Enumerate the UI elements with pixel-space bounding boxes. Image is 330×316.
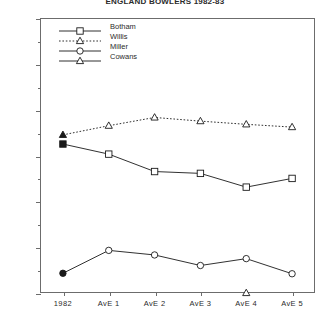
legend-item-miller[interactable]: Miller: [58, 42, 186, 52]
data-point: [243, 289, 250, 295]
data-point: [197, 170, 203, 176]
data-point: [151, 114, 158, 120]
legend-swatch: [58, 22, 102, 32]
legend-item-botham[interactable]: Botham: [58, 22, 186, 32]
data-point: [151, 168, 157, 174]
data-point: [60, 141, 66, 147]
legend-item-willis[interactable]: Willis: [58, 32, 186, 42]
x-axis-label: 1982: [54, 299, 72, 308]
legend-label: Cowans: [110, 52, 137, 62]
x-axis-label: AvE 4: [235, 299, 257, 308]
legend-swatch: [58, 32, 102, 42]
series-cowans: [243, 289, 250, 295]
series-botham: [60, 141, 296, 190]
x-axis-label: AvE 1: [98, 299, 120, 308]
data-point: [243, 121, 250, 127]
y-axis-tick: [36, 294, 41, 295]
x-axis-label: AvE 3: [189, 299, 211, 308]
chart-legend: BothamWillisMillerCowans: [58, 22, 186, 62]
series-line: [63, 250, 292, 273]
data-point: [59, 131, 66, 137]
data-point: [60, 270, 66, 276]
x-axis-label: AvE 2: [144, 299, 166, 308]
data-point: [243, 184, 249, 190]
legend-label: Willis: [110, 32, 128, 42]
series-miller: [60, 247, 296, 277]
legend-label: Botham: [110, 22, 136, 32]
data-point: [106, 247, 112, 253]
data-point: [197, 262, 203, 268]
series-willis: [59, 114, 295, 138]
data-point: [243, 255, 249, 261]
chart-title: ENGLAND BOWLERS 1982-83: [0, 0, 330, 6]
data-point: [106, 151, 112, 157]
legend-label: Miller: [110, 42, 128, 52]
data-point: [289, 175, 295, 181]
legend-swatch: [58, 52, 102, 62]
data-point: [151, 252, 157, 258]
x-axis-label: AvE 5: [281, 299, 303, 308]
data-point: [289, 271, 295, 277]
legend-item-cowans[interactable]: Cowans: [58, 52, 186, 62]
legend-swatch: [58, 42, 102, 52]
series-line: [63, 117, 292, 134]
series-line: [63, 144, 292, 187]
chart-figure: ENGLAND BOWLERS 1982-83 4005006007008009…: [0, 0, 330, 316]
data-point: [105, 122, 112, 128]
